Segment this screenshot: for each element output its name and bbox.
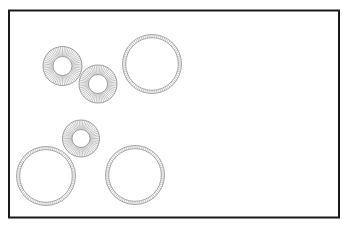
ring-d bbox=[63, 120, 100, 157]
rim-outer-edge bbox=[123, 35, 182, 94]
ring-inner-edge bbox=[53, 57, 72, 76]
shapes-layer bbox=[17, 35, 182, 206]
circle-f bbox=[106, 146, 165, 205]
rim-inner-edge bbox=[109, 149, 162, 202]
ring-inner-edge bbox=[89, 75, 108, 94]
ring-b bbox=[79, 65, 117, 103]
rim-outer-edge bbox=[106, 146, 165, 205]
diagram-canvas bbox=[0, 0, 348, 227]
rim-inner-edge bbox=[20, 150, 73, 203]
circle-c bbox=[123, 35, 182, 94]
circle-e bbox=[17, 147, 76, 206]
rim-inner-edge bbox=[126, 38, 179, 91]
ring-a bbox=[43, 47, 82, 86]
diagram-frame bbox=[9, 11, 339, 218]
rim-outer-edge bbox=[17, 147, 76, 206]
ring-inner-edge bbox=[72, 130, 90, 148]
